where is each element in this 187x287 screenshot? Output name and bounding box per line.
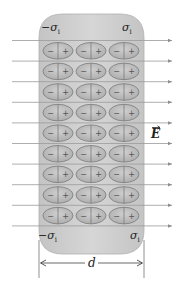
minus-sign: − [113, 212, 120, 221]
plus-sign: + [62, 88, 69, 97]
minus-sign: − [113, 109, 120, 118]
plus-sign: + [95, 67, 102, 76]
dipole: −+ [109, 166, 139, 183]
plus-sign: + [95, 191, 102, 200]
dipole: −+ [76, 187, 106, 204]
minus-sign: − [80, 47, 87, 56]
dipole-grid: −+−+−+−+−+−+−+−+−+−+−+−+−+−+−+−+−+−+−+−+… [43, 43, 139, 224]
plus-sign: + [62, 67, 69, 76]
dipole: −+ [109, 63, 139, 80]
plus-sign: + [62, 129, 69, 138]
minus-sign: − [113, 129, 120, 138]
dipole: −+ [76, 104, 106, 121]
plus-sign: + [95, 170, 102, 179]
dipole: −+ [43, 63, 73, 80]
dipole: −+ [43, 43, 73, 60]
minus-sign: − [113, 88, 120, 97]
minus-sign: − [47, 109, 54, 118]
minus-sign: − [80, 150, 87, 159]
dipole: −+ [76, 84, 106, 101]
minus-sign: − [113, 191, 120, 200]
plus-sign: + [62, 170, 69, 179]
plus-sign: + [128, 129, 135, 138]
minus-sign: − [47, 88, 54, 97]
dipole: −+ [43, 84, 73, 101]
plus-sign: + [128, 67, 135, 76]
minus-sign: − [47, 212, 54, 221]
plus-sign: + [95, 47, 102, 56]
dipole: −+ [43, 146, 73, 163]
plus-sign: + [128, 150, 135, 159]
plus-sign: + [95, 88, 102, 97]
dipole: −+ [109, 43, 139, 60]
minus-sign: − [80, 67, 87, 76]
plus-sign: + [62, 150, 69, 159]
minus-sign: − [113, 150, 120, 159]
label-width-d: d [88, 256, 96, 270]
minus-sign: − [80, 212, 87, 221]
dipole: −+ [109, 125, 139, 142]
svg-text:E: E [150, 127, 161, 141]
dipole: −+ [76, 166, 106, 183]
dipole: −+ [109, 84, 139, 101]
plus-sign: + [128, 170, 135, 179]
dipole: −+ [76, 207, 106, 224]
minus-sign: − [80, 191, 87, 200]
plus-sign: + [128, 88, 135, 97]
dipole: −+ [43, 187, 73, 204]
minus-sign: − [80, 129, 87, 138]
dipole: −+ [109, 104, 139, 121]
dipole: −+ [43, 125, 73, 142]
plus-sign: + [95, 150, 102, 159]
minus-sign: − [47, 129, 54, 138]
minus-sign: − [47, 150, 54, 159]
dielectric-diagram: −+−+−+−+−+−+−+−+−+−+−+−+−+−+−+−+−+−+−+−+… [0, 0, 187, 287]
plus-sign: + [128, 47, 135, 56]
plus-sign: + [95, 109, 102, 118]
dipole: −+ [109, 187, 139, 204]
plus-sign: + [95, 129, 102, 138]
plus-sign: + [128, 212, 135, 221]
dipole: −+ [43, 166, 73, 183]
plus-sign: + [62, 212, 69, 221]
minus-sign: − [47, 67, 54, 76]
plus-sign: + [62, 109, 69, 118]
plus-sign: + [62, 191, 69, 200]
plus-sign: + [95, 212, 102, 221]
dipole: −+ [109, 146, 139, 163]
dipole: −+ [76, 125, 106, 142]
plus-sign: + [128, 191, 135, 200]
dipole: −+ [76, 63, 106, 80]
minus-sign: − [47, 47, 54, 56]
minus-sign: − [80, 170, 87, 179]
dipole: −+ [76, 43, 106, 60]
dipole: −+ [43, 104, 73, 121]
plus-sign: + [62, 47, 69, 56]
minus-sign: − [47, 191, 54, 200]
minus-sign: − [113, 67, 120, 76]
minus-sign: − [47, 170, 54, 179]
minus-sign: − [113, 170, 120, 179]
minus-sign: − [80, 109, 87, 118]
dipole: −+ [76, 146, 106, 163]
dipole: −+ [43, 207, 73, 224]
dipole: −+ [109, 207, 139, 224]
plus-sign: + [128, 109, 135, 118]
label-electric-field: E [150, 126, 161, 141]
minus-sign: − [80, 88, 87, 97]
minus-sign: − [113, 47, 120, 56]
